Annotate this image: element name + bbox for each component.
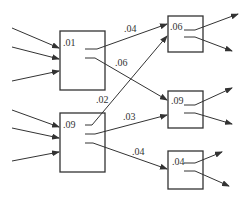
input-arrow-b2 <box>12 128 59 138</box>
edge-label-b-d: .03 <box>123 111 136 122</box>
input-arrow-a1 <box>12 28 59 48</box>
output-arrow-d2 <box>184 113 232 124</box>
node-label-d: .09 <box>171 95 184 106</box>
network-diagram: .01 .09 .06 .09 .04 .04 .06 .02 .03 .04 <box>0 0 241 198</box>
input-arrow-a3 <box>12 71 59 81</box>
input-arrow-a2 <box>12 47 59 59</box>
edge-b-e <box>85 143 167 169</box>
input-arrow-b3 <box>12 152 59 161</box>
output-arrow-c2 <box>184 37 232 51</box>
node-label-b: .09 <box>63 119 76 130</box>
node-label-a: .01 <box>63 37 76 48</box>
node-label-c: .06 <box>170 21 183 32</box>
output-arrow-e2 <box>184 171 229 186</box>
edge-label-a-d: .06 <box>115 57 128 68</box>
node-label-e: .04 <box>172 156 185 167</box>
edge-label-b-e: .04 <box>132 146 145 157</box>
edge-label-b-c: .02 <box>96 94 109 105</box>
input-arrow-b1 <box>12 110 59 127</box>
edge-label-a-c: .04 <box>124 23 137 34</box>
